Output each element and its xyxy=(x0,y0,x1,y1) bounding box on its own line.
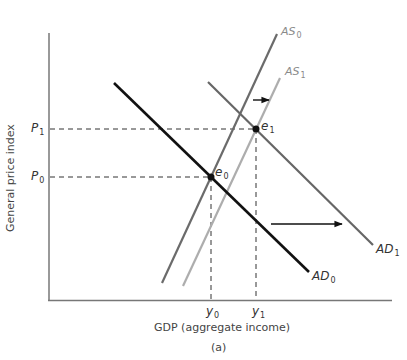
as1-subscript: 1 xyxy=(301,71,306,80)
as0-letters: AS xyxy=(281,25,296,38)
e0-label: e0 xyxy=(215,166,228,178)
y1-subscript: 1 xyxy=(260,311,265,320)
x-axis-title: GDP (aggregate income) xyxy=(154,322,290,333)
y1-label: y1 xyxy=(252,305,265,317)
ad1-letters: AD xyxy=(376,242,393,256)
y-axis-title: General price index xyxy=(4,124,17,232)
e0-subscript: 0 xyxy=(223,172,228,181)
as1-letters: AS xyxy=(285,65,300,78)
e1-subscript: 1 xyxy=(269,126,274,135)
p1-subscript: 1 xyxy=(39,128,44,137)
ad0-label: AD0 xyxy=(312,270,336,282)
ad1-subscript: 1 xyxy=(394,249,399,258)
y0-letter: y xyxy=(206,304,213,318)
e1-letter: e xyxy=(261,119,268,133)
ad1-label: AD1 xyxy=(376,243,400,255)
y1-letter: y xyxy=(252,304,259,318)
ad1-curve xyxy=(208,82,373,245)
p1-label: P1 xyxy=(31,122,44,134)
figure-caption: (a) xyxy=(211,342,226,353)
e0-letter: e xyxy=(215,165,222,179)
e1-label: e1 xyxy=(261,120,274,132)
p1-letter: P xyxy=(31,121,38,135)
p0-label: P0 xyxy=(31,170,44,182)
ad0-letters: AD xyxy=(312,269,329,283)
as0-label: AS0 xyxy=(281,26,302,37)
e0-point xyxy=(208,174,215,181)
p0-subscript: 0 xyxy=(39,176,44,185)
e1-point xyxy=(253,126,260,133)
as1-curve xyxy=(183,78,280,286)
guide-lines xyxy=(50,129,256,300)
as-ad-chart xyxy=(0,0,407,360)
as0-curve xyxy=(162,34,277,283)
as1-label: AS1 xyxy=(285,66,306,77)
ad0-subscript: 0 xyxy=(330,276,335,285)
y0-subscript: 0 xyxy=(214,311,219,320)
p0-letter: P xyxy=(31,169,38,183)
as0-subscript: 0 xyxy=(297,31,302,40)
y0-label: y0 xyxy=(206,305,219,317)
